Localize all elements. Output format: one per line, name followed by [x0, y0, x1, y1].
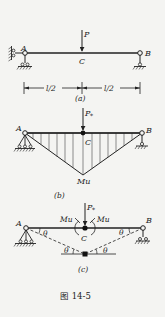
left-support-icon: [14, 131, 35, 152]
angle-label: θ: [64, 246, 69, 255]
dim-left: l/2: [46, 84, 56, 93]
label-c: C: [85, 138, 91, 147]
label-p: P: [83, 30, 90, 39]
label-a: A: [20, 44, 27, 53]
left-support-icon: [14, 226, 36, 247]
panel-b: A B P * C Mu (b): [14, 108, 152, 200]
mechanism-line-right: [85, 228, 143, 254]
label-p-sub: *: [90, 112, 93, 119]
label-p-sub: *: [92, 206, 95, 213]
label-b: B: [145, 216, 152, 225]
label-b: B: [145, 126, 152, 135]
label-a: A: [15, 219, 22, 228]
angle-label: θ: [103, 246, 108, 255]
label-c: C: [81, 234, 87, 243]
hinge-displaced-icon: [83, 252, 88, 257]
label-moment-left: Mu: [59, 215, 73, 224]
angle-label: θ: [43, 229, 48, 238]
beam-plastic-hinge-figure: A B P C l/2 l/2 (a): [0, 0, 165, 317]
figure-caption: 图 14-5: [60, 291, 91, 301]
plastic-hinge-icon: [81, 131, 86, 136]
moment-diagram: [25, 133, 142, 175]
label-moment: Mu: [76, 177, 90, 186]
dimension-line: [24, 82, 140, 94]
plastic-hinge-icon: [82, 225, 87, 230]
label-moment-right: Mu: [96, 215, 110, 224]
label-c: C: [79, 57, 85, 66]
panel-c: θ θ θ θ Mu Mu P * C A: [14, 203, 152, 274]
dim-right: l/2: [104, 84, 114, 93]
label-b: B: [144, 49, 151, 58]
panel-tag-a: (a): [75, 94, 85, 103]
panel-a: A B P C l/2 l/2 (a): [9, 30, 152, 103]
panel-tag-c: (c): [78, 265, 88, 274]
angle-label: θ: [119, 228, 124, 237]
label-a: A: [15, 124, 22, 133]
panel-tag-b: (b): [54, 191, 65, 200]
